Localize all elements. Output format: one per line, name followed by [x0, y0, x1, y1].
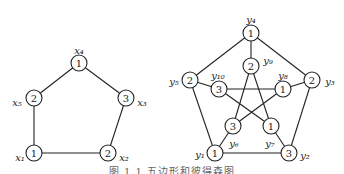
right-node-y9: 2y₉ [243, 55, 273, 75]
left-node-x4: 1x₄ [71, 45, 87, 72]
node-label: y₃ [324, 76, 335, 87]
node-color-number: 3 [216, 84, 222, 95]
node-label: x₂ [119, 152, 129, 163]
right-node-y5: 2y₅ [168, 72, 198, 88]
right-edge-y9-y6 [233, 66, 251, 126]
node-label: y₄ [245, 14, 256, 25]
right-node-y6: 3y₆ [225, 118, 241, 149]
left-node-x1: 1x₁ [15, 145, 42, 163]
node-color-number: 3 [286, 148, 292, 159]
node-color-number: 1 [268, 121, 274, 132]
node-label: x₄ [74, 45, 84, 56]
left-graph-nodes: 1x₁2x₂3x₃1x₄2x₅ [12, 45, 147, 163]
left-node-x3: 3x₃ [118, 90, 147, 108]
node-color-number: 2 [187, 75, 193, 86]
right-edge-y2-y3 [289, 80, 312, 153]
right-node-y8: 1y₈ [275, 70, 291, 98]
node-label: y₅ [168, 76, 179, 87]
left-edge-x4-x5 [34, 63, 79, 98]
node-color-number: 1 [248, 28, 254, 39]
node-label: y₂ [299, 150, 310, 161]
right-edge-y9-y7 [251, 66, 271, 126]
right-node-y10: 3y₁₀ [210, 70, 227, 98]
right-node-y7: 1y₇ [263, 118, 279, 149]
node-label: x₁ [15, 152, 25, 163]
figure-caption: 图 1.1 五边形和彼得森图 [0, 163, 344, 174]
right-node-y2: 3y₂ [281, 145, 310, 161]
node-label: y₇ [264, 138, 275, 149]
node-color-number: 3 [123, 93, 129, 104]
node-label: x₃ [137, 97, 147, 108]
node-label: y₉ [262, 55, 273, 66]
node-label: x₅ [12, 97, 22, 108]
node-color-number: 2 [31, 93, 37, 104]
right-graph-nodes: 1y₁3y₂2y₃1y₄2y₅3y₆1y₇1y₈2y₉3y₁₀ [168, 14, 335, 162]
node-color-number: 1 [212, 148, 218, 159]
right-node-y1: 1y₁ [194, 145, 223, 161]
node-color-number: 1 [280, 84, 286, 95]
left-node-x2: 2x₂ [100, 145, 129, 163]
node-color-number: 2 [309, 75, 315, 86]
right-node-y3: 2y₃ [304, 72, 335, 88]
right-graph-edges [190, 33, 312, 153]
left-edge-x3-x4 [79, 63, 126, 98]
node-color-number: 3 [230, 121, 236, 132]
graph-figure: 1x₁2x₂3x₃1x₄2x₅ 1y₁3y₂2y₃1y₄2y₅3y₆1y₇1y₈… [0, 0, 344, 174]
right-node-y4: 1y₄ [243, 14, 259, 42]
left-node-x5: 2x₅ [12, 90, 42, 108]
node-label: y₈ [277, 70, 288, 81]
node-label: y₆ [228, 138, 239, 149]
node-color-number: 2 [105, 148, 111, 159]
node-color-number: 2 [248, 61, 254, 72]
left-graph-edges [34, 63, 126, 153]
node-label: y₁₀ [210, 70, 225, 81]
node-label: y₁ [194, 149, 205, 160]
node-color-number: 1 [31, 148, 37, 159]
left-edge-x2-x3 [108, 98, 126, 153]
node-color-number: 1 [76, 58, 82, 69]
